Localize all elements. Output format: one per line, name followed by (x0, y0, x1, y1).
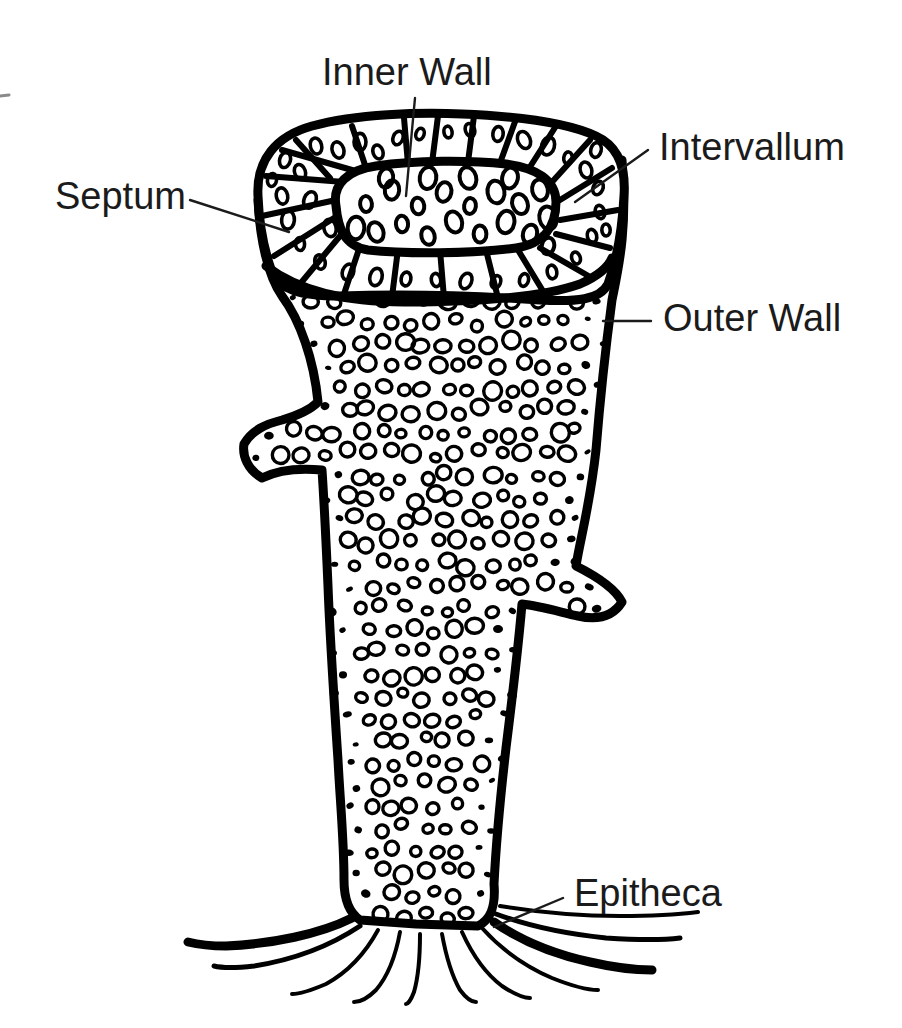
epitheca-filament (406, 934, 420, 1004)
septum-line (404, 118, 408, 164)
label-intervallum: Intervallum (659, 126, 845, 168)
label-inner-wall: Inner Wall (322, 51, 492, 93)
epitheca-filament (354, 932, 400, 1002)
pore-dot (264, 432, 274, 440)
label-epitheca: Epitheca (574, 872, 723, 914)
label-septum: Septum (55, 175, 186, 217)
diagram-canvas: Inner WallIntervallumSeptumOuter WallEpi… (0, 0, 902, 1028)
pore-dot (330, 650, 337, 656)
edge-tick-mark (0, 95, 9, 96)
epitheca-filament (442, 934, 476, 1002)
label-outer-wall: Outer Wall (663, 297, 841, 339)
epitheca-filament (494, 922, 652, 970)
archaeocyathid-diagram: Inner WallIntervallumSeptumOuter WallEpi… (0, 0, 902, 1028)
